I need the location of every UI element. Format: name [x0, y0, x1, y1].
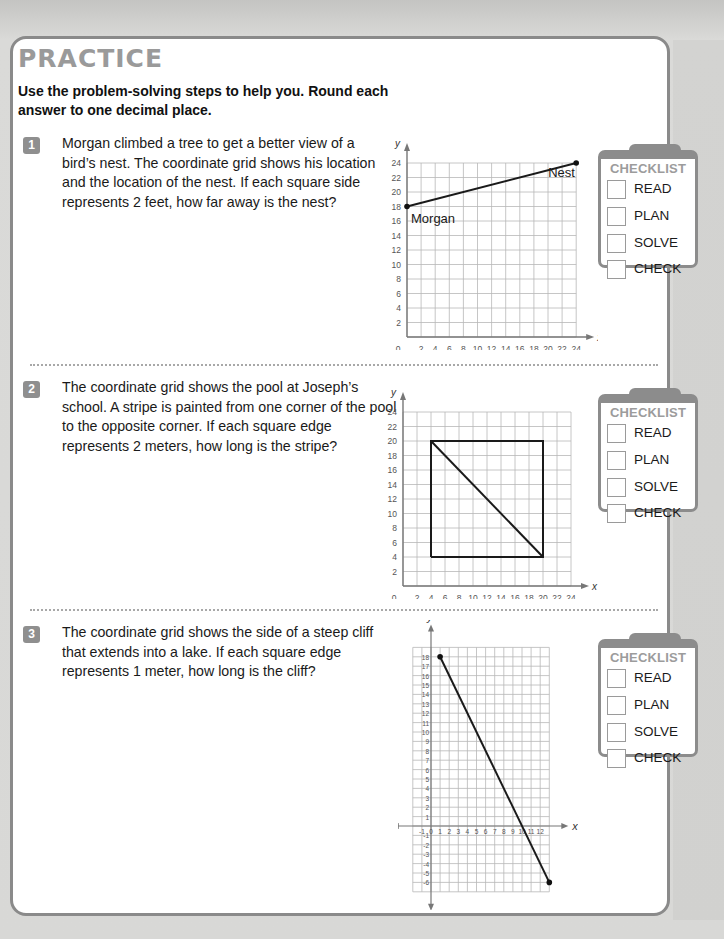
svg-text:8: 8: [392, 523, 397, 533]
svg-text:4: 4: [466, 828, 470, 835]
svg-text:2: 2: [447, 828, 451, 835]
checklist-label: PLAN: [634, 452, 669, 467]
svg-text:24: 24: [392, 158, 402, 168]
coordinate-grid-chart-3: xy-10123456789101112-6-5-4-3-2-112345678…: [398, 620, 578, 910]
svg-text:5: 5: [425, 776, 429, 783]
svg-text:1: 1: [438, 828, 442, 835]
svg-text:10: 10: [422, 729, 430, 736]
svg-text:8: 8: [461, 344, 466, 350]
svg-text:10: 10: [392, 260, 402, 270]
svg-text:22: 22: [388, 422, 398, 432]
svg-text:4: 4: [392, 552, 397, 562]
svg-text:x: x: [596, 332, 598, 343]
svg-text:13: 13: [422, 701, 430, 708]
svg-text:12: 12: [537, 828, 545, 835]
svg-text:6: 6: [396, 289, 401, 299]
checkbox[interactable]: [607, 234, 626, 253]
clipboard-tab: [629, 633, 681, 642]
svg-text:2: 2: [425, 804, 429, 811]
svg-text:0: 0: [396, 344, 401, 350]
svg-text:22: 22: [552, 593, 562, 599]
checklist-heading: CHECKLIST: [601, 650, 695, 665]
svg-text:16: 16: [392, 216, 402, 226]
problem-number-badge: 1: [23, 137, 40, 154]
svg-text:y: y: [394, 138, 401, 149]
svg-text:-5: -5: [423, 870, 429, 877]
checkbox[interactable]: [607, 424, 626, 443]
checklist-label: PLAN: [634, 208, 669, 223]
svg-text:14: 14: [422, 691, 430, 698]
svg-text:14: 14: [388, 480, 398, 490]
svg-text:2: 2: [415, 593, 420, 599]
checklist-1: CHECKLIST READ PLAN SOLVE CHECK: [598, 150, 698, 268]
svg-text:18: 18: [529, 344, 539, 350]
checkbox[interactable]: [607, 669, 626, 688]
svg-text:18: 18: [392, 202, 402, 212]
svg-text:10: 10: [388, 509, 398, 519]
checklist-label: PLAN: [634, 697, 669, 712]
svg-text:9: 9: [511, 828, 515, 835]
svg-text:22: 22: [557, 344, 567, 350]
checklist-heading: CHECKLIST: [601, 405, 695, 420]
svg-text:8: 8: [502, 828, 506, 835]
svg-text:16: 16: [388, 465, 398, 475]
checkbox[interactable]: [607, 696, 626, 715]
svg-text:y: y: [390, 387, 397, 398]
svg-text:4: 4: [429, 593, 434, 599]
svg-text:12: 12: [487, 344, 497, 350]
svg-text:8: 8: [425, 748, 429, 755]
svg-text:12: 12: [392, 245, 402, 255]
checklist-label: SOLVE: [634, 724, 678, 739]
checkbox[interactable]: [607, 478, 626, 497]
svg-text:8: 8: [396, 274, 401, 284]
clipboard-tab: [629, 144, 681, 153]
checklist-label: READ: [634, 425, 672, 440]
svg-text:9: 9: [425, 738, 429, 745]
svg-text:0: 0: [429, 828, 433, 835]
svg-text:11: 11: [528, 828, 535, 835]
svg-text:20: 20: [543, 344, 553, 350]
checkbox[interactable]: [607, 749, 626, 768]
svg-text:20: 20: [538, 593, 548, 599]
svg-text:20: 20: [392, 187, 402, 197]
svg-text:20: 20: [388, 436, 398, 446]
svg-text:6: 6: [447, 344, 452, 350]
svg-text:x: x: [571, 820, 578, 832]
svg-text:22: 22: [392, 173, 402, 183]
checkbox[interactable]: [607, 260, 626, 279]
checkbox[interactable]: [607, 451, 626, 470]
problem-text: Morgan climbed a tree to get a better vi…: [62, 134, 392, 212]
svg-text:12: 12: [388, 494, 398, 504]
checkbox[interactable]: [607, 504, 626, 523]
svg-text:x: x: [591, 581, 598, 592]
svg-text:24: 24: [566, 593, 576, 599]
checklist-label: SOLVE: [634, 235, 678, 250]
svg-text:16: 16: [510, 593, 520, 599]
checkbox[interactable]: [607, 180, 626, 199]
problem-number-badge: 2: [23, 381, 40, 398]
svg-text:7: 7: [425, 757, 429, 764]
svg-text:4: 4: [433, 344, 438, 350]
svg-text:12: 12: [422, 710, 430, 717]
checkbox[interactable]: [607, 723, 626, 742]
coordinate-grid-chart-1: xy02468101214161820222424681012141618202…: [378, 135, 598, 350]
svg-text:18: 18: [388, 451, 398, 461]
svg-text:0: 0: [392, 593, 397, 599]
checklist-3: CHECKLIST READ PLAN SOLVE CHECK: [598, 639, 698, 757]
svg-text:-4: -4: [423, 861, 429, 868]
instructions: Use the problem-solving steps to help yo…: [18, 82, 408, 120]
svg-text:3: 3: [456, 828, 460, 835]
svg-text:24: 24: [571, 344, 581, 350]
problem-text: The coordinate grid shows the side of a …: [62, 623, 392, 682]
checklist-label: SOLVE: [634, 479, 678, 494]
svg-text:4: 4: [396, 303, 401, 313]
svg-text:y: y: [426, 620, 434, 623]
section-divider: [30, 364, 658, 366]
checkbox[interactable]: [607, 207, 626, 226]
svg-text:14: 14: [501, 344, 511, 350]
svg-text:11: 11: [422, 720, 429, 727]
svg-text:18: 18: [422, 654, 430, 661]
svg-text:Morgan: Morgan: [411, 211, 455, 226]
checklist-label: READ: [634, 670, 672, 685]
svg-text:18: 18: [524, 593, 534, 599]
